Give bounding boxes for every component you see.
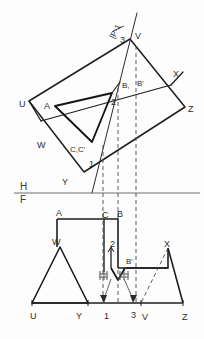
top-view-group [29,13,185,193]
front-view-label-2: 2 [110,240,115,249]
erasure-mark-left [99,271,108,280]
projection-drawing [0,0,204,339]
top-view-label-3: 3 [120,36,125,45]
front-view-label-x: X [164,240,170,249]
top-view-label-b: B, [122,82,130,90]
reference-line-label-f: F [20,195,26,205]
arrowhead-point-1 [100,295,107,303]
top-view-label-y: Y [62,178,68,187]
front-view-label-u: U [30,312,37,321]
erasure-mark-right [119,271,129,280]
top-view-label-a: A [44,102,50,111]
front-view-label-v: V [142,313,148,322]
front-view-label-w: W [52,238,61,247]
front-view-label-b: B [117,210,123,219]
top-view-label-b-prime: B' [137,80,144,88]
front-view-right-trapezoid [168,248,183,303]
front-view-label-3: 3 [131,311,136,320]
front-view-label-z: Z [182,313,188,322]
top-view-label-v: V [135,32,141,41]
top-view-label-u: U [19,100,26,109]
front-view-label-y: Y [76,312,82,321]
top-view-label-c-c-prime: C,C' [70,146,85,154]
front-view-label-1: 1 [104,312,109,321]
top-view-label-2: 2 [111,98,116,107]
drawing-sheet: [P-1 H F 3 V X Z U A 2 B, B' W C,C' 1 Y … [0,0,204,339]
hidden-line-diagonal-right [141,248,168,303]
front-view-left-triangle [32,247,88,303]
front-view-label-a: A [56,209,62,218]
top-view-label-1: 1 [89,160,94,169]
top-view-cut-triangle [55,93,112,142]
top-view-edge-w [29,101,41,121]
front-view-label-c: C [102,211,109,220]
top-view-label-x: X [173,70,179,79]
top-view-ridge-line [41,85,171,121]
top-view-label-w: W [37,141,46,150]
top-view-label-z: Z [188,105,194,114]
reference-line-label-h: H [20,182,27,192]
front-view-label-b-prime: B' [126,258,133,266]
